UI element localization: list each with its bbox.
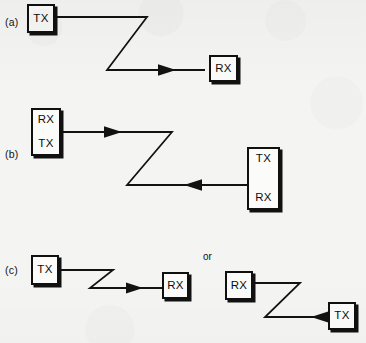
panel-c-left-tx-label: TX	[37, 264, 52, 276]
panel-a-arrowhead-icon	[158, 64, 176, 75]
panel-b-forward-arrowhead-icon	[104, 126, 122, 137]
panel-a-tx-box: TX	[27, 4, 55, 33]
panel-c-right-rx-label: RX	[231, 280, 248, 292]
panel-b-return-arrowhead-icon	[184, 179, 202, 190]
panel-label-a: (a)	[5, 16, 18, 28]
panel-c-left-path-group	[59, 270, 162, 293]
panel-b-path-group	[61, 126, 247, 190]
panel-c-right-tx-label: TX	[334, 310, 349, 322]
panel-c-right-signal-path	[253, 283, 328, 317]
panel-c-left-arrowhead-icon	[126, 283, 143, 294]
panel-c-right-path-group	[253, 283, 329, 323]
panel-c-rx-box-left: RX	[162, 272, 189, 299]
panel-label-b: (b)	[5, 148, 18, 160]
panel-b-rx-label: RX	[38, 114, 55, 126]
panel-b-signal-path	[61, 132, 247, 185]
panel-a-path-group	[55, 17, 205, 76]
panel-a-tx-label: TX	[33, 13, 48, 25]
panel-a-signal-path	[55, 17, 205, 70]
panel-b-tx-label: TX	[38, 138, 53, 150]
figure-canvas: (a) TX RX (b) RX TX TX RX (c) or TX RX R…	[0, 0, 366, 343]
panel-c-rx-box-right: RX	[225, 271, 253, 300]
panel-c-or-label: or	[203, 251, 212, 262]
panel-a-rx-box: RX	[209, 55, 238, 82]
panel-c-tx-box-right: TX	[328, 302, 356, 330]
panel-b-right-tx-label: TX	[256, 153, 271, 165]
panel-a-rx-label: RX	[215, 63, 232, 75]
panel-label-c: (c)	[5, 264, 18, 276]
panel-c-left-signal-path	[59, 270, 162, 288]
panel-c-tx-box-left: TX	[31, 255, 59, 285]
panel-c-left-rx-label: RX	[167, 280, 184, 292]
panel-c-right-arrowhead-icon	[311, 311, 329, 322]
panel-b-rx-tx-box: RX TX	[31, 108, 61, 156]
panel-b-right-rx-label: RX	[255, 192, 272, 204]
panel-b-tx-rx-box: TX RX	[247, 147, 280, 210]
